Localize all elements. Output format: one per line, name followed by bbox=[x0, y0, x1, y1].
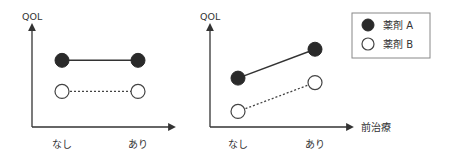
left-series-b-point-0 bbox=[55, 84, 69, 98]
left-x-tick-1: あり bbox=[128, 139, 148, 150]
chart-figure: QOL なし あり QOL 前治療 なし あり 薬剤 A 薬剤 B bbox=[0, 0, 454, 157]
legend-label-a: 薬剤 A bbox=[383, 19, 413, 31]
right-y-label: QOL bbox=[200, 11, 221, 22]
right-series-a-point-1 bbox=[308, 42, 322, 56]
right-x-tick-1: あり bbox=[305, 139, 325, 150]
left-series-a-point-0 bbox=[55, 53, 69, 67]
right-series-b-point-1 bbox=[308, 76, 322, 90]
right-x-tick-0: なし bbox=[228, 139, 248, 150]
legend-marker-b bbox=[362, 38, 374, 50]
legend-label-b: 薬剤 B bbox=[383, 38, 413, 50]
left-series-b-point-1 bbox=[131, 84, 145, 98]
right-series-b-line bbox=[238, 83, 315, 112]
legend-marker-a bbox=[362, 19, 374, 31]
right-series-a-point-0 bbox=[231, 71, 245, 85]
right-series-b-point-0 bbox=[231, 104, 245, 118]
left-panel: QOL なし あり bbox=[22, 11, 172, 150]
left-x-tick-0: なし bbox=[52, 139, 72, 150]
legend: 薬剤 A 薬剤 B bbox=[352, 13, 430, 58]
right-x-label: 前治療 bbox=[361, 121, 391, 133]
left-y-label: QOL bbox=[22, 11, 43, 22]
right-series-a-line bbox=[238, 49, 315, 78]
left-series-a-point-1 bbox=[131, 53, 145, 67]
